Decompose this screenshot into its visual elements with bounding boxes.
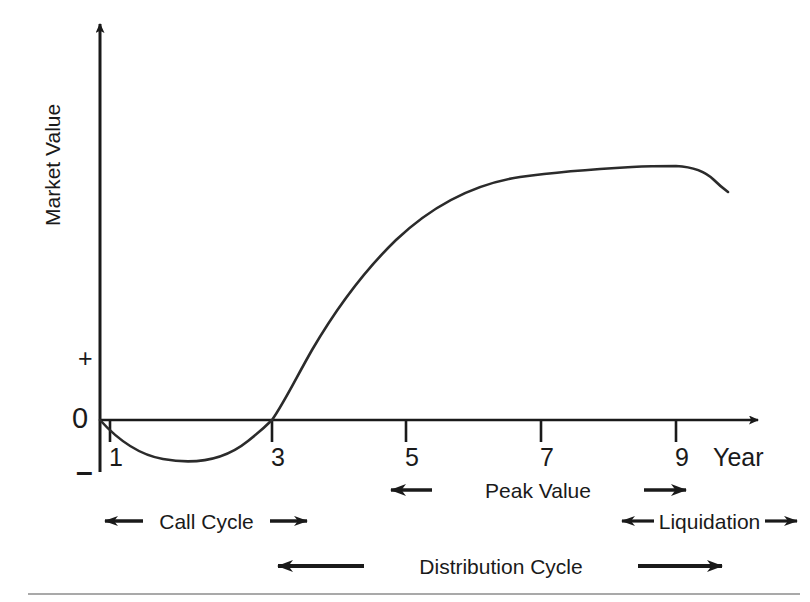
distribution-cycle-label: Distribution Cycle xyxy=(419,556,582,577)
x-axis-ticks xyxy=(110,420,676,442)
y-axis-plus-symbol: + xyxy=(78,346,93,371)
j-curve-figure: Market Value + 0 – 1 3 5 7 9 Year Call C… xyxy=(0,0,810,602)
y-axis-zero-symbol: 0 xyxy=(72,404,88,433)
x-tick-label-9: 9 xyxy=(675,445,689,470)
x-tick-label-1: 1 xyxy=(109,445,123,470)
liquidation-label: Liquidation xyxy=(659,511,761,532)
x-tick-label-3: 3 xyxy=(271,445,285,470)
call-cycle-label: Call Cycle xyxy=(159,511,254,532)
y-axis-minus-symbol: – xyxy=(76,457,93,487)
x-axis-title: Year xyxy=(713,445,764,470)
x-tick-label-5: 5 xyxy=(405,445,419,470)
y-axis-title: Market Value xyxy=(42,103,63,225)
x-tick-label-7: 7 xyxy=(540,445,554,470)
peak-value-label: Peak Value xyxy=(485,480,591,501)
market-value-curve xyxy=(100,166,728,461)
